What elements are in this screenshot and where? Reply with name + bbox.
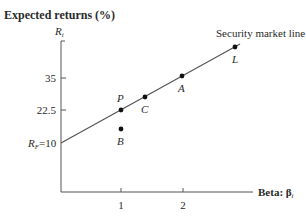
chart-root: Expected returns (%) Ri 35 22.5 RF=10 1 … [0, 0, 306, 221]
point-b [119, 127, 124, 132]
point-l [233, 45, 238, 50]
x-tick-label-1: 1 [118, 199, 124, 211]
y-axis-symbol: Ri [54, 25, 64, 39]
point-p [119, 108, 124, 113]
sml-label: Security market line [216, 27, 305, 39]
security-market-line [61, 44, 240, 143]
y-tick-label-22-5: 22.5 [37, 104, 57, 116]
point-label-p: P [116, 92, 124, 104]
point-a [180, 74, 185, 79]
point-label-c: C [141, 103, 149, 115]
point-label-l: L [231, 53, 238, 65]
point-label-a: A [177, 82, 185, 94]
x-axis-title: Beta: βi [258, 186, 294, 200]
point-c [143, 95, 148, 100]
point-label-b: B [117, 135, 124, 147]
y-tick-label-35: 35 [45, 72, 57, 84]
rf-label: RF=10 [27, 137, 57, 151]
y-axis-title: Expected returns (%) [4, 8, 115, 22]
x-tick-label-2: 2 [180, 199, 186, 211]
